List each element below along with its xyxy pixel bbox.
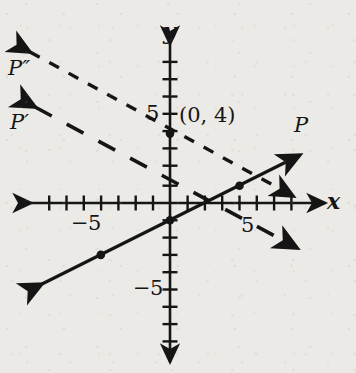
y-tick-label-5: 5 (146, 103, 159, 124)
curve-label-p-double-prime: P″ (8, 58, 30, 79)
point-n4-n3 (97, 251, 106, 260)
point-4-1 (235, 181, 244, 190)
y-tick-label-neg-5: −5 (133, 278, 163, 299)
y-axis-label: y (163, 20, 176, 42)
point-0-n1 (166, 216, 175, 225)
coordinate-plane-svg (0, 0, 356, 373)
x-axis (31, 196, 325, 211)
x-tick-label-neg-5: −5 (71, 213, 101, 234)
graph-figure: x y −5 5 5 −5 (0, 4) P P′ P″ (0, 0, 356, 373)
x-axis-label: x (327, 190, 340, 212)
x-tick-label-5: 5 (241, 215, 254, 236)
curve-label-p-prime: P′ (10, 112, 29, 133)
point-label-0-4: (0, 4) (179, 105, 235, 126)
curve-label-p: P (294, 115, 308, 136)
point-0-4 (166, 129, 175, 138)
